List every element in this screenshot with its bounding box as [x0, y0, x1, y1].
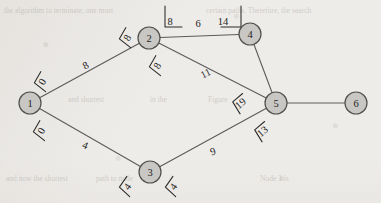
graph-node-5[interactable]: 5 — [265, 92, 287, 114]
node-label: 6 — [353, 98, 358, 109]
graph-edge — [160, 34, 239, 37]
node-label: 1 — [27, 98, 32, 109]
graph-edge — [40, 43, 140, 97]
node-label: 2 — [146, 33, 151, 44]
graph-edge — [254, 44, 272, 92]
graph-svg: 123456 — [0, 0, 381, 203]
graph-node-3[interactable]: 3 — [139, 161, 161, 183]
graph-node-2[interactable]: 2 — [138, 27, 160, 49]
graph-node-1[interactable]: 1 — [19, 92, 41, 114]
ann-node4-top: 14 — [218, 17, 229, 28]
figure-canvas: the algorithm to terminate, one mustcert… — [0, 0, 381, 203]
node-label: 4 — [247, 29, 253, 40]
graph-edge — [159, 43, 266, 98]
graph-node-6[interactable]: 6 — [345, 92, 367, 114]
graph-edge — [40, 108, 141, 166]
graph-edge — [160, 108, 267, 166]
node-label: 3 — [147, 167, 152, 178]
graph-node-4[interactable]: 4 — [239, 23, 261, 45]
ann-node2-top: 8 — [167, 17, 172, 28]
node-label: 5 — [273, 98, 278, 109]
edge-weight-2-4: 6 — [195, 19, 200, 30]
